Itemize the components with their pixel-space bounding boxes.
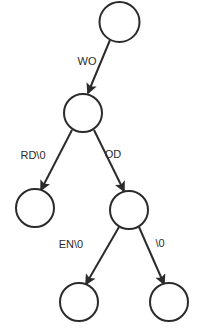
- edge-line-wo-word: [41, 130, 72, 190]
- tree-diagram: WO RD\0 OD EN\0 \0: [0, 0, 203, 334]
- node-wood-leaf: [150, 283, 188, 321]
- edge-label-od: OD: [105, 148, 122, 160]
- edge-label-en-null: EN\0: [59, 238, 83, 250]
- node-group: [16, 2, 188, 321]
- node-wood: [110, 191, 148, 229]
- node-wo: [64, 94, 102, 132]
- node-word-leaf: [16, 189, 54, 227]
- edge-wo-to-word: RD\0: [20, 130, 72, 190]
- edge-label-rd-null: RD\0: [20, 149, 45, 161]
- edge-wood-to-end: \0: [139, 227, 165, 284]
- edge-label-null: \0: [155, 237, 164, 249]
- edge-group: WO RD\0 OD EN\0 \0: [20, 40, 164, 284]
- edge-root-to-wo: WO: [78, 40, 110, 93]
- edge-line-wood-end: [139, 227, 164, 284]
- node-root: [100, 2, 140, 42]
- edge-line-wo-wood: [94, 130, 124, 191]
- node-wooden-leaf: [60, 283, 98, 321]
- edge-wood-to-wooden: EN\0: [59, 227, 119, 284]
- edge-label-wo: WO: [78, 55, 97, 67]
- edge-line-wood-wooden: [86, 227, 119, 284]
- edge-wo-to-wood: OD: [94, 130, 124, 191]
